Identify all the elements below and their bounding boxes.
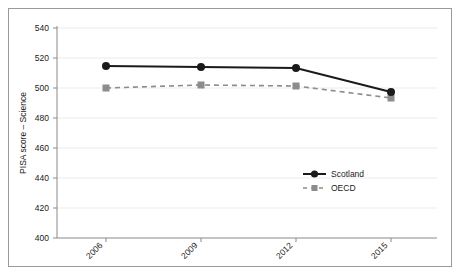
scotland-marker-2009: [197, 63, 205, 71]
y-tick-label-540: 540: [35, 23, 49, 33]
oecd-marker-2012: [293, 83, 300, 90]
line-chart: 540 520 500 480 460 440 420 400 PISA sco…: [0, 0, 461, 276]
x-tick-labels: 2006 2009 2012 2015: [84, 240, 390, 261]
y-tick-label-520: 520: [35, 53, 49, 63]
series-oecd: [103, 82, 395, 102]
scotland-marker-2006: [102, 62, 110, 70]
scotland-marker-2015: [387, 88, 395, 96]
y-tick-label-500: 500: [35, 83, 49, 93]
chart-legend: Scotland OECD: [303, 169, 364, 193]
x-tick-label-2012: 2012: [274, 240, 295, 261]
x-tick-label-2006: 2006: [84, 240, 105, 261]
y-tick-label-440: 440: [35, 173, 49, 183]
series-scotland: [102, 62, 395, 96]
oecd-line: [106, 85, 391, 98]
scotland-marker-2012: [292, 64, 300, 72]
x-tick-label-2015: 2015: [369, 240, 390, 261]
y-tick-label-420: 420: [35, 203, 49, 213]
y-tick-label-480: 480: [35, 113, 49, 123]
chart-figure: 540 520 500 480 460 440 420 400 PISA sco…: [0, 0, 461, 276]
oecd-marker-2006: [103, 85, 110, 92]
legend-entry-oecd: OECD: [303, 183, 356, 193]
y-tick-marks: [53, 28, 57, 238]
y-tick-label-400: 400: [35, 233, 49, 243]
y-axis-title: PISA score – Science: [18, 92, 28, 174]
legend-label-oecd: OECD: [331, 183, 356, 193]
x-tick-marks: [106, 238, 391, 242]
legend-oecd-square-marker: [312, 185, 318, 191]
gridlines: [57, 28, 437, 208]
oecd-marker-2009: [198, 82, 205, 89]
legend-label-scotland: Scotland: [331, 169, 364, 179]
y-tick-label-460: 460: [35, 143, 49, 153]
x-tick-label-2009: 2009: [179, 240, 200, 261]
legend-scotland-circle-marker: [311, 170, 318, 177]
y-tick-labels: 540 520 500 480 460 440 420 400: [35, 23, 49, 243]
